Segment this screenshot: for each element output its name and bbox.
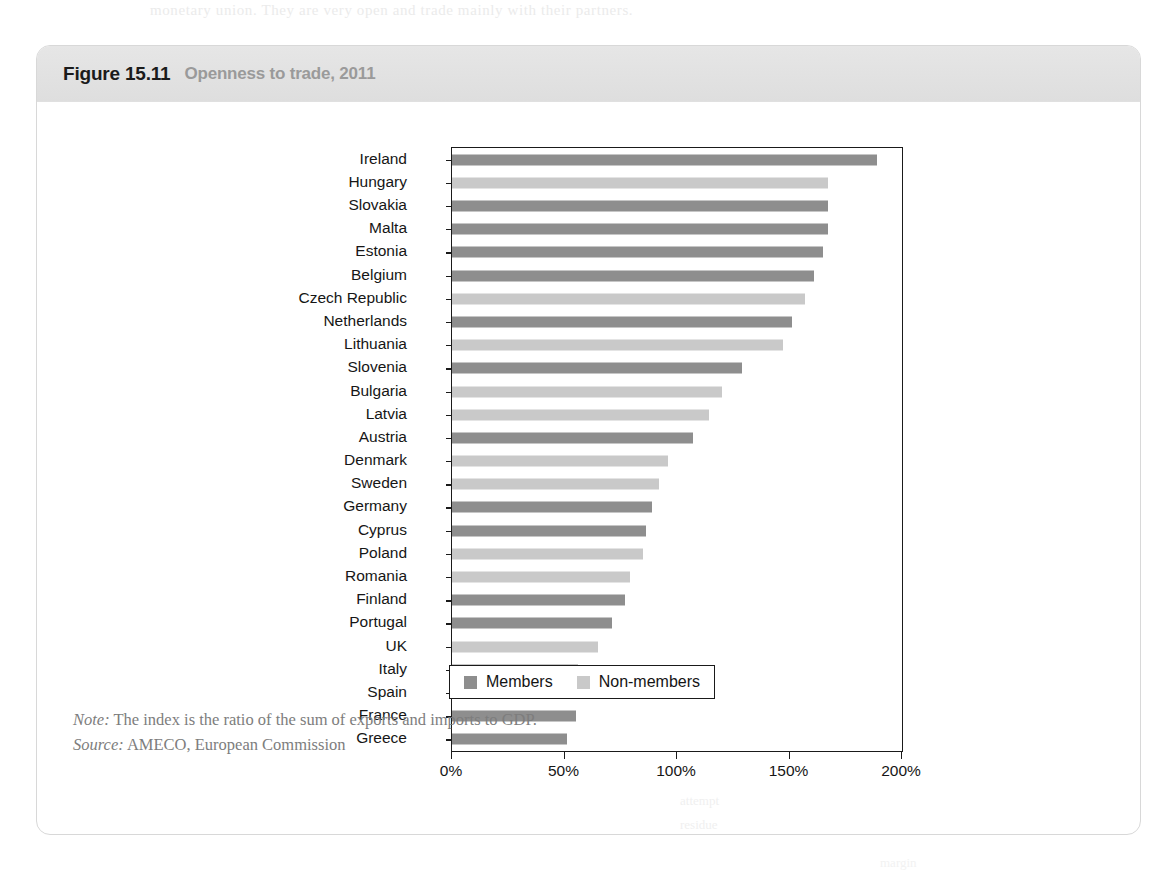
figure-number: Figure 15.11 xyxy=(63,63,170,85)
category-label: Cyprus xyxy=(358,522,407,538)
bar-malta xyxy=(452,224,828,235)
bar-poland xyxy=(452,548,643,559)
category-label: Spain xyxy=(367,684,407,700)
legend-swatch-members-icon xyxy=(464,676,477,689)
bar-sweden xyxy=(452,479,659,490)
bar-cyprus xyxy=(452,525,646,536)
bar-netherlands xyxy=(452,316,792,327)
plot-area xyxy=(451,147,903,752)
category-label: Finland xyxy=(356,592,407,608)
figure-caption: Openness to trade, 2011 xyxy=(184,64,375,84)
openness-to-trade-chart: IrelandHungarySlovakiaMaltaEstoniaBelgiu… xyxy=(37,102,1140,774)
category-label: Italy xyxy=(379,661,407,677)
bar-portugal xyxy=(452,618,612,629)
category-label: Netherlands xyxy=(323,313,407,329)
bar-germany xyxy=(452,502,652,513)
legend-swatch-non-members-icon xyxy=(577,676,590,689)
category-label: Malta xyxy=(369,220,407,236)
bar-denmark xyxy=(452,456,668,467)
bar-czech-republic xyxy=(452,293,805,304)
legend-label-members: Members xyxy=(486,673,553,691)
category-label: Austria xyxy=(359,429,407,445)
bar-belgium xyxy=(452,270,814,281)
source-key: Source: xyxy=(73,735,124,754)
bar-finland xyxy=(452,595,625,606)
figure-card: Figure 15.11 Openness to trade, 2011 uni… xyxy=(36,45,1141,835)
bar-bulgaria xyxy=(452,386,722,397)
chart-legend: Members Non-members xyxy=(449,665,715,699)
category-label: Ireland xyxy=(360,151,407,167)
note-key: Note: xyxy=(73,710,110,729)
bar-ireland xyxy=(452,154,877,165)
category-label: Slovenia xyxy=(348,360,407,376)
bleed-through-text-bottom: margin xyxy=(880,855,917,871)
category-label: Slovakia xyxy=(348,197,407,213)
note-text: The index is the ratio of the sum of exp… xyxy=(110,710,537,729)
y-axis-category-labels: IrelandHungarySlovakiaMaltaEstoniaBelgiu… xyxy=(251,147,415,752)
category-label: Belgium xyxy=(351,267,407,283)
legend-label-non-members: Non-members xyxy=(599,673,700,691)
legend-item-members: Members xyxy=(464,673,553,691)
bar-austria xyxy=(452,432,693,443)
figure-source: Source: AMECO, European Commission xyxy=(73,732,1140,758)
bar-uk xyxy=(452,641,598,652)
category-label: Germany xyxy=(343,499,407,515)
category-label: Bulgaria xyxy=(350,383,407,399)
category-label: UK xyxy=(385,638,407,654)
bar-hungary xyxy=(452,177,828,188)
category-label: Denmark xyxy=(344,452,407,468)
category-label: Estonia xyxy=(355,244,407,260)
category-label: Lithuania xyxy=(344,336,407,352)
bar-romania xyxy=(452,572,630,583)
category-label: Portugal xyxy=(349,615,407,631)
category-label: Hungary xyxy=(348,174,407,190)
category-label: Sweden xyxy=(351,476,407,492)
bar-estonia xyxy=(452,247,823,258)
legend-item-non-members: Non-members xyxy=(577,673,700,691)
figure-note: Note: The index is the ratio of the sum … xyxy=(73,707,1140,733)
figure-footer: Note: The index is the ratio of the sum … xyxy=(37,707,1140,774)
category-label: Romania xyxy=(345,568,407,584)
bar-slovenia xyxy=(452,363,742,374)
category-label: Poland xyxy=(359,545,407,561)
figure-body: union in a destination to criminally tha… xyxy=(37,102,1140,774)
category-label: Latvia xyxy=(366,406,407,422)
bar-lithuania xyxy=(452,340,783,351)
source-text: AMECO, European Commission xyxy=(124,735,346,754)
bleed-through-text-top: monetary union. They are very open and t… xyxy=(150,2,633,19)
figure-header: Figure 15.11 Openness to trade, 2011 xyxy=(37,46,1140,102)
category-label: Czech Republic xyxy=(298,290,407,306)
bar-latvia xyxy=(452,409,709,420)
bar-slovakia xyxy=(452,200,828,211)
